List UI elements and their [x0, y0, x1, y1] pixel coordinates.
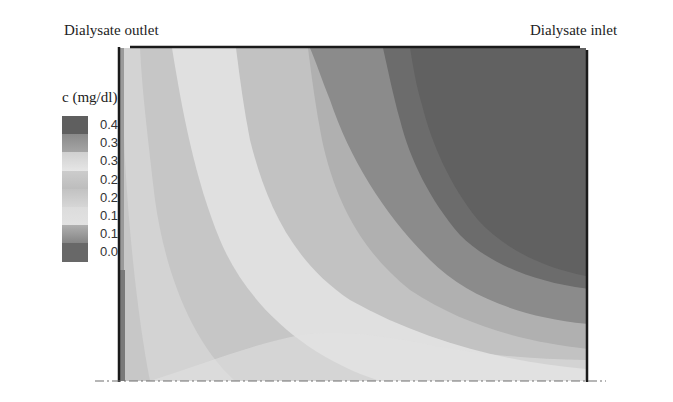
contour-plot [0, 0, 673, 402]
contour-bands [120, 48, 600, 381]
